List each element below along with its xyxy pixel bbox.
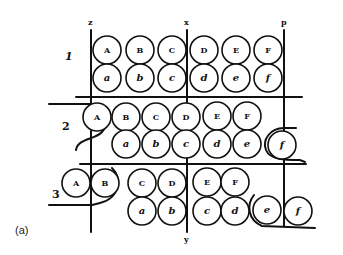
ball-2-E: E (203, 102, 231, 130)
ball-3-A: A (62, 169, 90, 197)
ball-3-a: a (128, 197, 156, 225)
ball-1-b: b (126, 64, 154, 92)
ball-2-a: a (112, 130, 140, 158)
ball-label: A (103, 45, 111, 55)
ball-3-e: e (253, 196, 281, 224)
ball-label: e (233, 72, 239, 83)
row-label-2: 2 (62, 120, 70, 133)
ball-1-D: D (190, 36, 218, 64)
ball-2-B: B (112, 103, 140, 131)
ball-label: D (169, 178, 176, 188)
ball-label: e (244, 138, 250, 149)
ball-label: E (204, 177, 210, 187)
ball-label: D (201, 45, 208, 55)
ball-2-C: C (142, 103, 170, 131)
ball-label: F (265, 45, 271, 55)
ball-label: E (233, 45, 239, 55)
row-label-3: 3 (52, 188, 60, 201)
ball-label: D (183, 112, 190, 122)
ball-label: c (169, 72, 175, 83)
ball-2-f: f (268, 131, 296, 159)
ball-1-B: B (126, 36, 154, 64)
ball-2-b: b (142, 130, 170, 158)
ball-2-d: d (203, 130, 231, 158)
ball-3-d: d (221, 197, 249, 225)
ball-label: B (102, 178, 109, 188)
ball-label: C (139, 178, 145, 188)
ball-arrangement-diagram: ABCDEFabcdefABCDEFabcdefABCDEFabcdef z x… (0, 0, 343, 255)
ball-label: C (169, 45, 175, 55)
ball-2-c: c (172, 130, 200, 158)
ball-label: b (137, 72, 144, 83)
ball-label: a (139, 205, 145, 216)
ball-label: A (72, 178, 80, 188)
ball-label: E (214, 111, 220, 121)
ball-2-e: e (233, 130, 261, 158)
ball-label: b (153, 138, 160, 149)
axis-label-z: z (88, 17, 93, 27)
ball-1-a: a (93, 64, 121, 92)
ball-label: B (137, 45, 144, 55)
ball-label: B (123, 112, 130, 122)
ball-label: d (232, 205, 239, 216)
ball-2-F: F (233, 102, 261, 130)
ball-label: a (104, 72, 110, 83)
ball-3-C: C (128, 169, 156, 197)
ball-3-B: B (91, 169, 119, 197)
ball-label: c (204, 205, 210, 216)
ball-2-A: A (83, 103, 111, 131)
axis-label-x: x (184, 17, 189, 27)
ball-3-D: D (158, 169, 186, 197)
ball-label: d (214, 138, 221, 149)
ball-3-c: c (193, 197, 221, 225)
ball-3-F: F (221, 168, 249, 196)
ball-1-C: C (158, 36, 186, 64)
figure-caption: (a) (15, 224, 28, 236)
ball-1-e: e (222, 64, 250, 92)
ball-2-D: D (172, 103, 200, 131)
ball-label: a (123, 138, 129, 149)
ball-label: F (244, 111, 250, 121)
ball-label: A (93, 112, 101, 122)
ball-label: c (183, 138, 189, 149)
ball-label: C (153, 112, 159, 122)
ball-1-f: f (254, 64, 282, 92)
ball-label: b (169, 205, 176, 216)
row-label-1: 1 (65, 50, 73, 63)
ball-3-b: b (158, 197, 186, 225)
axis-label-p: p (281, 17, 287, 27)
ball-1-c: c (158, 64, 186, 92)
ball-3-f: f (284, 197, 312, 225)
ball-label: d (201, 72, 208, 83)
ball-1-F: F (254, 36, 282, 64)
ball-label: F (232, 177, 238, 187)
ball-1-A: A (93, 36, 121, 64)
ball-1-d: d (190, 64, 218, 92)
ball-3-E: E (193, 168, 221, 196)
ball-label: e (264, 204, 270, 215)
axis-label-y: y (183, 234, 189, 244)
ball-1-E: E (222, 36, 250, 64)
